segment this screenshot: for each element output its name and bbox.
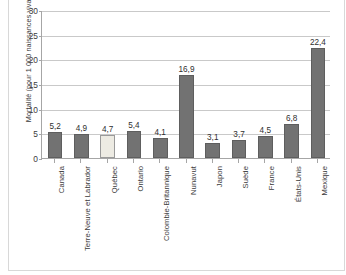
x-axis-category-label: Ontario <box>136 166 145 192</box>
plot-area: 051015202530 5,24,94,75,44,116,93,13,74,… <box>41 11 330 159</box>
bar-slot: 4,9 <box>74 11 89 158</box>
y-axis-tick-label: 10 <box>29 105 38 115</box>
bar[interactable] <box>179 75 194 158</box>
bar[interactable] <box>284 124 299 158</box>
bar-value-label: 5,2 <box>49 122 60 131</box>
y-axis-tick-label: 25 <box>29 31 38 41</box>
bar[interactable] <box>48 132 63 158</box>
bar[interactable] <box>127 131 142 158</box>
bar-slot: 4,5 <box>258 11 273 158</box>
x-axis-tick-mark <box>264 159 265 163</box>
bar-slot: 16,9 <box>179 11 194 158</box>
bar-slot: 4,7 <box>100 11 115 158</box>
y-axis-tick-mark <box>39 159 42 160</box>
x-axis-tick-mark <box>80 159 81 163</box>
bar[interactable] <box>100 135 115 158</box>
x-axis-tick-mark <box>107 159 108 163</box>
x-axis-tick-mark <box>238 159 239 163</box>
bar[interactable] <box>74 134 89 158</box>
y-axis-tick-label: 20 <box>29 55 38 65</box>
x-axis-tick-mark <box>133 159 134 163</box>
x-axis-category-label: Japon <box>215 166 224 187</box>
x-axis-tick-mark <box>317 159 318 163</box>
bar-chart-figure: Mortalité (pour 1 000 naissances vivante… <box>0 0 346 275</box>
bar[interactable] <box>311 48 326 159</box>
x-axis-category-label: États-Unis <box>294 166 303 202</box>
x-axis-category-label: Nunavut <box>189 166 198 195</box>
x-axis-category-label: France <box>267 166 276 190</box>
bar-slot: 5,2 <box>48 11 63 158</box>
bar-slot: 4,1 <box>153 11 168 158</box>
x-axis-category-label: Colombie-Britannique <box>162 166 171 241</box>
bar-slot: 5,4 <box>127 11 142 158</box>
bar-value-label: 3,7 <box>233 130 244 139</box>
x-axis-tick-mark <box>291 159 292 163</box>
bar-slot: 3,1 <box>205 11 220 158</box>
x-axis-category-label: Suède <box>241 166 250 188</box>
x-axis-tick-mark <box>212 159 213 163</box>
bar-slot: 3,7 <box>232 11 247 158</box>
bar-value-label: 6,8 <box>286 114 297 123</box>
x-axis-tick-mark <box>54 159 55 163</box>
bar[interactable] <box>232 140 247 158</box>
bars-layer: 5,24,94,75,44,116,93,13,74,56,822,4 <box>42 11 330 158</box>
bar[interactable] <box>153 138 168 158</box>
bar-value-label: 4,9 <box>76 124 87 133</box>
x-axis-category-label: Mexique <box>320 166 329 195</box>
x-axis-tick-mark <box>159 159 160 163</box>
y-axis-tick-label: 5 <box>33 129 38 139</box>
x-axis-category-label: Terre-Neuve et Labrador <box>83 166 92 251</box>
bar-value-label: 5,4 <box>128 121 139 130</box>
bar-value-label: 4,7 <box>102 125 113 134</box>
bar-value-label: 22,4 <box>310 38 326 47</box>
bar-value-label: 4,1 <box>155 128 166 137</box>
bar[interactable] <box>205 143 220 158</box>
bar-value-label: 4,5 <box>260 126 271 135</box>
x-axis-category-label: Québec <box>110 166 119 193</box>
bar-value-label: 3,1 <box>207 133 218 142</box>
bar-slot: 6,8 <box>284 11 299 158</box>
x-axis-tick-mark <box>186 159 187 163</box>
y-axis-tick-label: 0 <box>33 154 38 164</box>
bar-value-label: 16,9 <box>179 65 195 74</box>
y-axis-tick-label: 30 <box>29 6 38 16</box>
y-axis-tick-label: 15 <box>29 80 38 90</box>
bar[interactable] <box>258 136 273 158</box>
bar-slot: 22,4 <box>311 11 326 158</box>
x-axis-category-label: Canada <box>57 166 66 193</box>
